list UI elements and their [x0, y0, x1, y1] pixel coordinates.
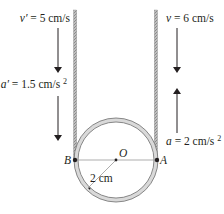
left-acceleration-symbol: a′	[1, 78, 10, 90]
radius-label: 2 cm	[90, 172, 113, 184]
right-rope	[154, 10, 157, 160]
right-velocity-symbol: v	[166, 12, 172, 24]
right-acceleration-value: = 2 cm/s	[175, 135, 215, 147]
left-acceleration-value: = 1.5 cm/s	[12, 78, 61, 90]
left-velocity-symbol: v′	[20, 12, 28, 24]
point-o-dot	[115, 159, 118, 162]
pulley-ring-diagram: v′ = 5 cm/s a′ = 1.5 cm/s 2 v = 6 cm/s a…	[0, 0, 224, 214]
right-acceleration-symbol: a	[166, 135, 172, 147]
point-a-label: A	[159, 154, 168, 166]
right-velocity-label: v = 6 cm/s	[166, 12, 214, 24]
left-velocity-label: v′ = 5 cm/s	[20, 12, 71, 24]
point-a-dot	[155, 158, 159, 162]
left-acceleration-label: a′ = 1.5 cm/s 2	[1, 77, 67, 90]
left-acceleration-exponent: 2	[63, 77, 67, 86]
point-o-label: O	[119, 147, 128, 159]
right-velocity-value: = 6 cm/s	[174, 12, 214, 24]
right-acceleration-label: a = 2 cm/s 2	[166, 134, 221, 147]
right-acceleration-exponent: 2	[217, 134, 221, 143]
point-b-dot	[73, 158, 77, 162]
left-velocity-value: = 5 cm/s	[30, 12, 70, 24]
left-rope	[74, 10, 77, 160]
point-b-label: B	[64, 154, 71, 166]
